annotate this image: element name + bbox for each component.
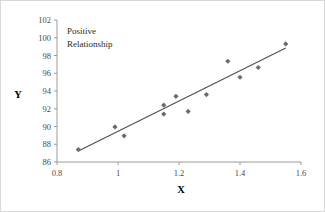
y-tick-label: 100 [38,33,51,43]
y-tick-label: 98 [43,51,52,61]
y-tick-label: 88 [43,139,52,149]
x-axis-title: X [177,184,185,195]
y-tick-label: 90 [43,122,52,132]
y-axis-tick-labels: 86889092949698100102 [38,15,57,167]
x-tick-label: 1.6 [296,168,307,178]
data-point-marker [225,59,230,64]
trend-line [78,48,285,151]
y-tick-label: 92 [43,104,52,114]
x-tick-label: 1.4 [235,168,246,178]
trend-line-segment [78,48,285,151]
y-tick-label: 102 [38,15,51,25]
data-point-marker [76,147,81,152]
data-points-group [76,41,289,152]
data-point-marker [112,124,117,129]
y-tick-label: 86 [43,157,52,167]
scatter-chart-container: 86889092949698100102 0.811.21.41.6 Y X P… [0,0,325,212]
data-point-marker [173,94,178,99]
x-tick-label: 0.8 [52,168,63,178]
annotation-line-1: Positive [67,26,96,36]
y-tick-label: 94 [43,86,52,96]
data-point-marker [256,65,261,70]
x-tick-label: 1 [116,168,120,178]
data-point-marker [283,41,288,46]
y-tick-label: 96 [43,68,52,78]
data-point-marker [122,133,127,138]
data-point-marker [161,111,166,116]
data-point-marker [204,92,209,97]
data-point-marker [237,75,242,80]
plot-area: 86889092949698100102 0.811.21.41.6 Y X P… [1,1,325,212]
x-tick-label: 1.2 [174,168,185,178]
annotation-line-2: Relationship [67,39,113,49]
y-axis-title: Y [14,89,22,100]
data-point-marker [186,109,191,114]
x-axis-tick-labels: 0.811.21.41.6 [52,162,307,178]
